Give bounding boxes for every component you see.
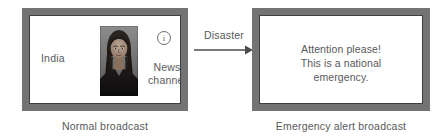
caption-normal-broadcast: Normal broadcast <box>22 120 188 132</box>
news-anchor-photo <box>100 26 138 96</box>
transition-label-disaster: Disaster <box>196 29 252 41</box>
normal-broadcast-tv: India <box>22 8 188 111</box>
alert-message-line-2: This is a national <box>260 56 422 70</box>
tv-screen-bezel: India <box>29 15 181 104</box>
channel-label: News channel <box>143 61 181 87</box>
alert-message-line-3: emergency. <box>260 70 422 84</box>
emergency-alert-message: Attention please! This is a national eme… <box>260 42 422 84</box>
country-label: India <box>41 52 65 64</box>
tv-screen-bezel: Attention please! This is a national eme… <box>259 15 423 104</box>
caption-emergency-alert-broadcast: Emergency alert broadcast <box>252 120 430 132</box>
info-icon[interactable]: i <box>157 31 171 45</box>
normal-broadcast-screen: India <box>30 16 180 103</box>
channel-label-line-2: channel <box>148 74 181 86</box>
emergency-alert-tv: Attention please! This is a national eme… <box>252 8 430 111</box>
alert-message-line-1: Attention please! <box>260 42 422 56</box>
channel-label-line-1: News <box>153 61 180 73</box>
transition-arrow-icon <box>192 43 254 57</box>
news-anchor-photo-image <box>100 26 138 96</box>
